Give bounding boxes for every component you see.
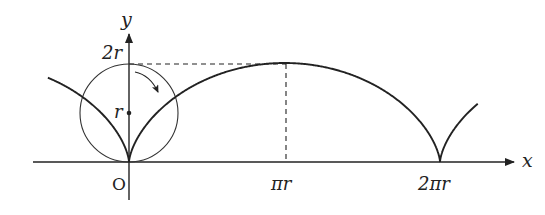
y-tick-2r: 2r: [101, 42, 123, 63]
rotation-arrow-icon: [135, 72, 158, 92]
cycloid-diagram: y x O 2r r πr 2πr: [0, 0, 545, 215]
origin-label: O: [112, 174, 126, 194]
cycloid-curve: [48, 63, 478, 162]
x-axis-label: x: [522, 149, 533, 171]
y-tick-r: r: [114, 101, 124, 122]
center-point: [127, 111, 132, 116]
x-tick-pi-r: πr: [270, 173, 293, 194]
y-axis-label: y: [120, 8, 132, 30]
x-tick-2pi-r: 2πr: [417, 173, 451, 194]
